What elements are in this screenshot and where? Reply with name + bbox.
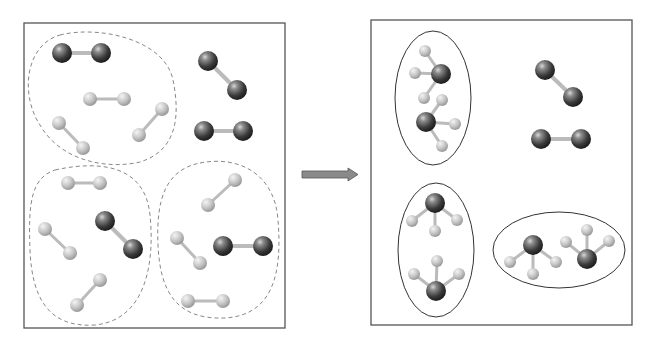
reaction-arrow — [302, 168, 358, 181]
reactants-panel — [24, 23, 285, 328]
products-panel — [371, 20, 632, 325]
reaction-diagram — [0, 0, 660, 339]
